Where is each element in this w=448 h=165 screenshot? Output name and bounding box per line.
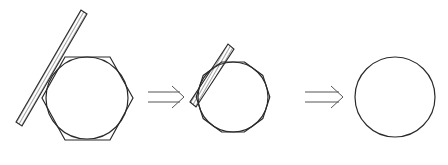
tangent-bar-1: [16, 10, 87, 126]
stage-3-group: [355, 57, 435, 137]
tangent-bar-2: [190, 44, 234, 107]
stage-1-group: [16, 10, 133, 140]
diagram-canvas: [0, 0, 448, 165]
hexagon-shape: [42, 57, 133, 140]
final-circle: [355, 57, 435, 137]
inscribed-circle-1: [46, 57, 128, 139]
stage-2-group: [190, 44, 270, 132]
implies-arrow-1: [148, 86, 184, 108]
implies-arrow-2: [305, 86, 343, 108]
inscribed-circle-2: [198, 62, 268, 132]
